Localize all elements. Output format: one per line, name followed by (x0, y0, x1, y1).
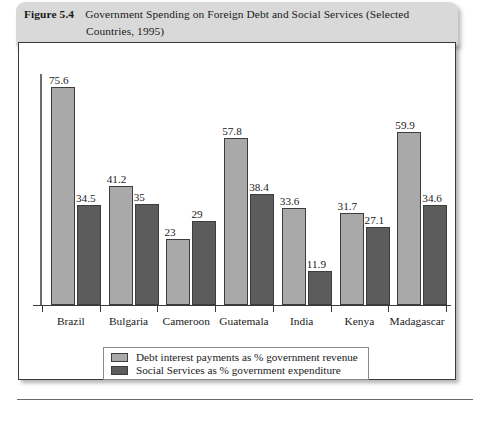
bar-series1 (340, 213, 364, 305)
bar-group: 57.838.4 (215, 74, 273, 305)
figure-body: 75.634.541.235232957.838.433.611.931.727… (18, 42, 456, 380)
bar-series2 (423, 205, 447, 305)
bar-value-series2: 29 (191, 208, 202, 220)
x-axis-tick (42, 306, 43, 312)
bar-value-series1: 23 (164, 226, 175, 238)
bar-series2 (366, 227, 390, 305)
chart-legend: Debt interest payments as % government r… (103, 347, 369, 380)
legend-swatch-series2-icon (111, 366, 128, 375)
figure-number: Figure 5.4 (24, 8, 74, 20)
bar-series2 (135, 204, 159, 305)
bar-series1 (282, 208, 306, 305)
bar-series1 (397, 132, 421, 305)
bar-group: 75.634.5 (42, 74, 100, 305)
page-bottom-rule (17, 399, 473, 400)
figure-card: Figure 5.4Government Spending on Foreign… (16, 2, 458, 382)
x-axis-label: Guatemala (215, 315, 273, 327)
x-axis-tick (157, 306, 158, 312)
bar-value-series1: 59.9 (395, 119, 415, 131)
x-axis-tick (446, 306, 447, 312)
bar-series1 (51, 87, 75, 305)
bar-series1 (224, 138, 248, 305)
x-axis-label: Brazil (42, 315, 100, 327)
bar-value-series1: 41.2 (107, 173, 127, 185)
x-axis-tick (388, 306, 389, 312)
bar-value-series1: 75.6 (49, 74, 69, 86)
legend-label-series2: Social Services as % government expendit… (136, 364, 341, 377)
figure-title: Figure 5.4Government Spending on Foreign… (16, 2, 458, 46)
x-axis-label: Kenya (331, 315, 389, 327)
bar-value-series2: 34.6 (422, 192, 442, 204)
x-axis-tick (273, 306, 274, 312)
bar-group: 33.611.9 (273, 74, 331, 305)
x-axis-label: Madagascar (388, 315, 446, 327)
bar-value-series1: 57.8 (222, 125, 242, 137)
bar-series2 (77, 205, 101, 305)
figure-title-line2: Countries, 1995) (86, 24, 448, 40)
bar-value-series1: 33.6 (280, 195, 300, 207)
bar-value-series2: 35 (134, 191, 145, 203)
x-axis-tick (100, 306, 101, 312)
bar-series2 (308, 271, 332, 305)
bar-group: 41.235 (100, 74, 158, 305)
bar-value-series2: 38.4 (249, 181, 269, 193)
legend-swatch-series1-icon (111, 353, 128, 362)
plot-bars: 75.634.541.235232957.838.433.611.931.727… (42, 74, 446, 305)
bar-value-series2: 27.1 (365, 214, 385, 226)
x-axis-label: Cameroon (157, 315, 215, 327)
bar-value-series2: 11.9 (307, 258, 326, 270)
legend-label-series1: Debt interest payments as % government r… (136, 351, 358, 364)
bar-series1 (109, 186, 133, 305)
bar-series2 (192, 221, 216, 305)
x-axis-tick (331, 306, 332, 312)
bar-value-series1: 31.7 (338, 200, 358, 212)
bar-group: 31.727.1 (331, 74, 389, 305)
bar-group: 59.934.6 (388, 74, 446, 305)
x-axis-tick (215, 306, 216, 312)
bar-chart: 75.634.541.235232957.838.433.611.931.727… (19, 43, 455, 379)
bar-group: 2329 (157, 74, 215, 305)
bar-value-series2: 34.5 (76, 192, 96, 204)
bar-series2 (250, 194, 274, 305)
figure-title-line1: Government Spending on Foreign Debt and … (85, 8, 409, 20)
bar-series1 (166, 239, 190, 305)
x-axis-label: India (273, 315, 331, 327)
x-axis-label: Bulgaria (100, 315, 158, 327)
